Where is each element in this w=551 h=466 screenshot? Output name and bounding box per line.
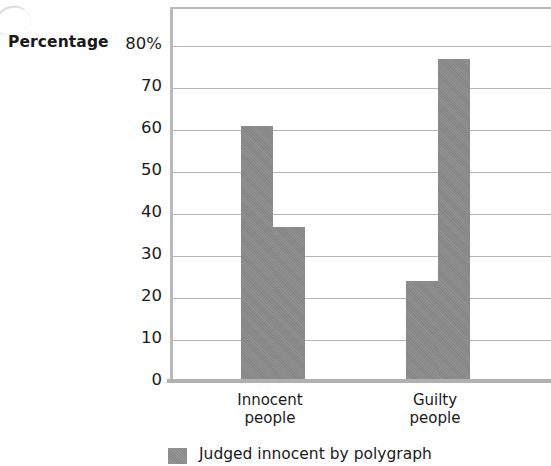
x-category-label-innocent: Innocent people xyxy=(210,392,330,427)
chart-legend: Judged innocent by polygraph xyxy=(0,447,551,466)
x-category-innocent-line1: Innocent xyxy=(210,392,330,410)
y-tick-20: 20 xyxy=(104,288,162,305)
plot-area xyxy=(170,7,551,382)
y-tick-70: 70 xyxy=(104,78,162,95)
y-tick-0: 0 xyxy=(104,372,162,389)
gridline-30 xyxy=(173,256,551,257)
y-tick-40: 40 xyxy=(104,204,162,221)
legend-swatch-icon xyxy=(168,448,187,464)
legend-label-judged-innocent: Judged innocent by polygraph xyxy=(199,447,432,463)
y-tick-50: 50 xyxy=(104,162,162,179)
y-axis-title: Percentage xyxy=(8,33,109,51)
gridline-20 xyxy=(173,298,551,299)
x-category-innocent-line2: people xyxy=(210,410,330,428)
x-axis-baseline xyxy=(167,379,551,383)
gridline-80 xyxy=(173,46,551,47)
y-axis-tick-labels: 80% 70 60 50 40 30 20 10 0 xyxy=(104,0,162,466)
bar-chart-figure: Percentage 80% 70 60 50 40 30 20 10 0 In… xyxy=(0,0,551,466)
legend-entry-judged-innocent: Judged innocent by polygraph xyxy=(168,447,432,464)
bar-innocent-judged-innocent xyxy=(241,126,273,382)
x-category-guilty-line1: Guilty xyxy=(375,392,495,410)
y-tick-80: 80% xyxy=(104,36,162,53)
bar-innocent-series-2 xyxy=(273,227,305,382)
x-category-label-guilty: Guilty people xyxy=(375,392,495,427)
gridline-40 xyxy=(173,214,551,215)
y-tick-60: 60 xyxy=(104,120,162,137)
bar-guilty-judged-innocent xyxy=(406,281,438,382)
y-tick-10: 10 xyxy=(104,330,162,347)
gridline-70 xyxy=(173,88,551,89)
x-category-guilty-line2: people xyxy=(375,410,495,428)
gridline-10 xyxy=(173,340,551,341)
gridline-50 xyxy=(173,172,551,173)
gridline-60 xyxy=(173,130,551,131)
y-tick-30: 30 xyxy=(104,246,162,263)
bar-guilty-series-2 xyxy=(438,59,470,382)
